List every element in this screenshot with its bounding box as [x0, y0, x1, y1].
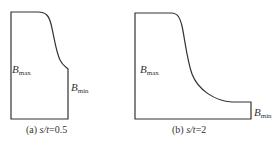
diagram-canvas: Bmax Bmin (a) s/t=0.5 Bmax Bmin (b) s/t=…	[0, 0, 280, 144]
panel-a-bmax-label: Bmax	[12, 63, 31, 77]
panel-b-profile	[135, 13, 251, 119]
panel-a-profile	[11, 12, 68, 119]
panel-a-bmin-label: Bmin	[71, 81, 89, 95]
panel-a-caption: (a) s/t=0.5	[26, 124, 67, 136]
panel-b-bmin-label: Bmin	[254, 106, 272, 120]
panel-b-caption: (b) s/t=2	[172, 124, 206, 136]
panel-b-bmax-label: Bmax	[140, 63, 159, 77]
